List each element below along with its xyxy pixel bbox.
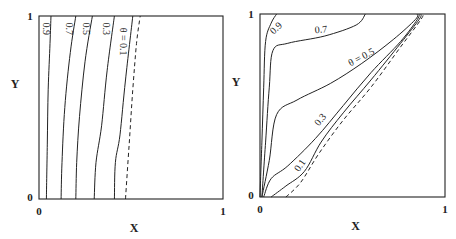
y-tick-label: 0	[27, 191, 33, 203]
contour-line-0-3	[94, 16, 114, 199]
contour-label: 0.3	[312, 111, 328, 128]
contour-label: 0.3	[101, 23, 112, 35]
y-tick-label: 0	[248, 189, 254, 201]
contour-label: 0.7	[314, 23, 327, 35]
x-axis-label: X	[130, 221, 139, 235]
contour-line-0-9	[46, 16, 51, 199]
contour-label: θ = 0.1	[118, 28, 129, 56]
contour-label: 0.9	[267, 19, 284, 36]
plot-frame	[39, 16, 223, 199]
plot-frame	[260, 14, 445, 197]
left-panel: 0.90.70.50.3θ = 0.10101XY	[11, 10, 226, 235]
contour-figure: 0.90.70.50.3θ = 0.10101XY 0.90.7θ = 0.50…	[0, 0, 456, 239]
contour-label: 0.7	[64, 23, 75, 35]
right-panel: 0.90.7θ = 0.50.30.10101XY	[232, 8, 448, 233]
x-tick-label: 1	[442, 203, 448, 215]
x-tick-label: 0	[257, 203, 263, 215]
x-tick-label: 1	[220, 205, 226, 217]
contour-line-0-5	[76, 16, 93, 199]
contour-label: 0.5	[81, 23, 92, 35]
contour-line-0-5	[262, 14, 418, 197]
y-axis-label: Y	[232, 75, 241, 89]
contour-label: 0.9	[41, 23, 52, 35]
contour-line-0-7	[61, 16, 76, 199]
contour-line-0-3	[264, 14, 420, 197]
x-axis-label: X	[351, 219, 360, 233]
y-tick-label: 1	[27, 10, 33, 22]
y-tick-label: 1	[248, 8, 254, 20]
y-axis-label: Y	[11, 77, 20, 91]
x-tick-label: 0	[36, 205, 42, 217]
contour-label: θ = 0.5	[346, 45, 376, 68]
